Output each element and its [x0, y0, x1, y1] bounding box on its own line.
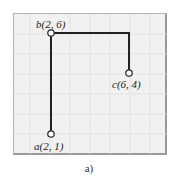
- node-c-icon: [126, 70, 132, 76]
- node-a-icon: [48, 131, 54, 137]
- label-c: c(6, 4): [112, 78, 141, 90]
- figure-caption: a): [0, 162, 178, 174]
- label-b: b(2, 6): [36, 18, 65, 30]
- node-b-icon: [48, 30, 54, 36]
- grid-lines: [14, 14, 166, 154]
- label-a: a(2, 1): [34, 140, 63, 152]
- path-diagram: [0, 0, 178, 180]
